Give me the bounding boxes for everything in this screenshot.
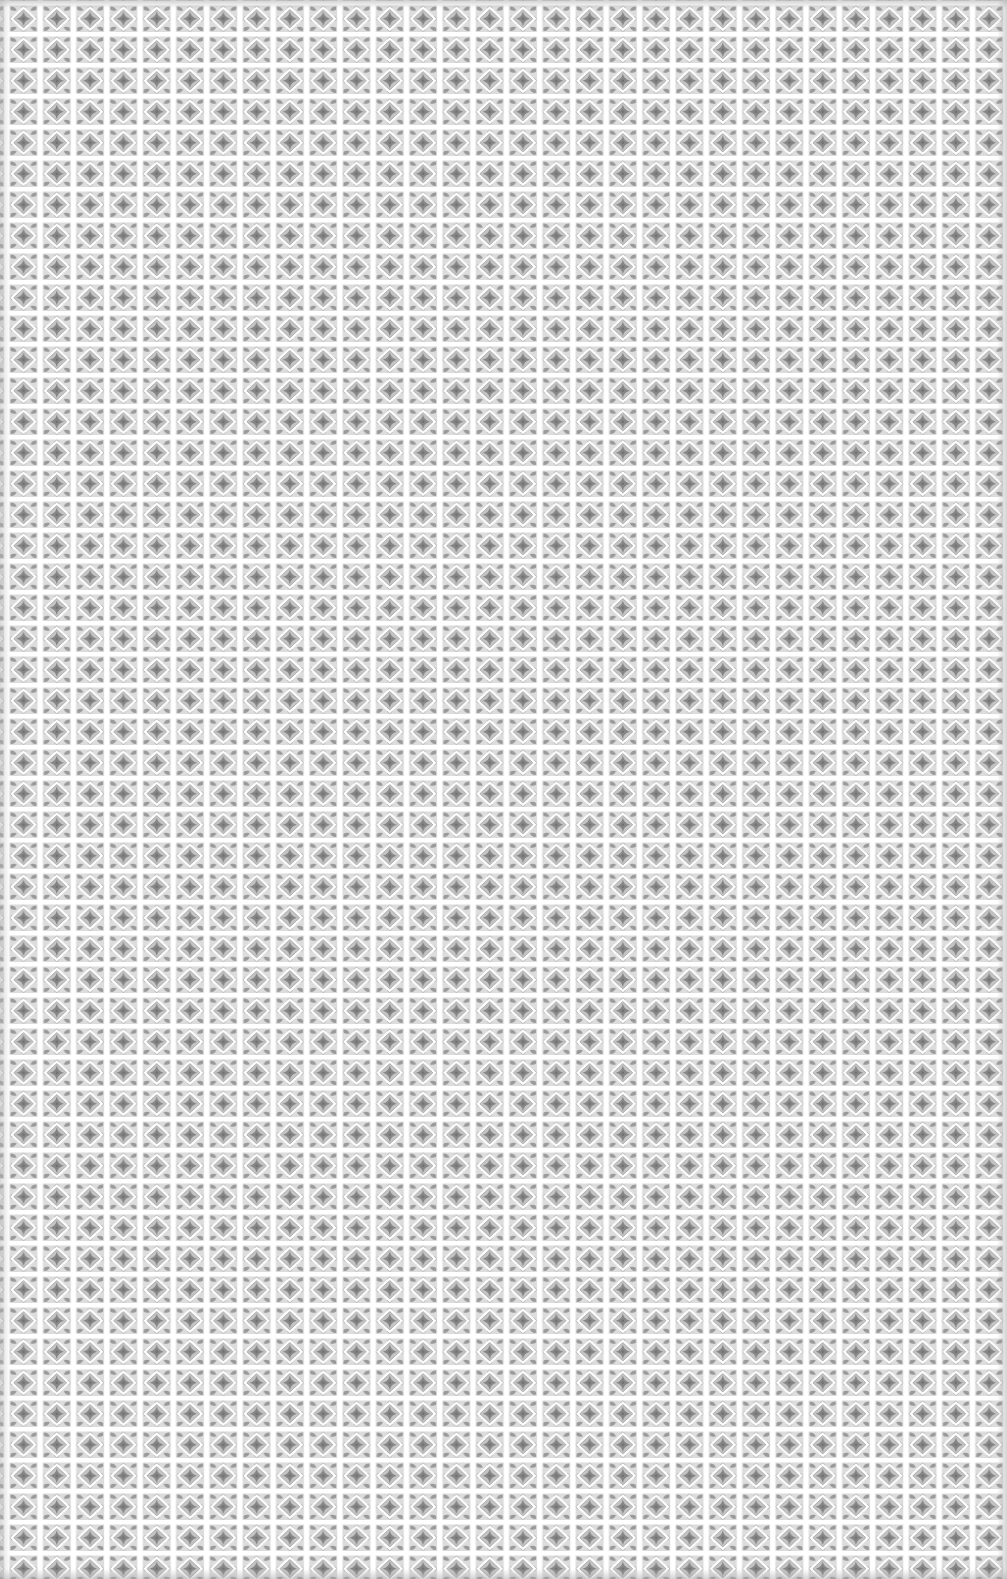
bottom-edge-shadow xyxy=(0,1569,1007,1579)
pattern-fill xyxy=(0,0,1007,1579)
patterned-background: Seamless repeating ornamental tile patte… xyxy=(0,0,1007,1579)
top-edge-shadow xyxy=(0,0,1007,8)
left-edge-shadow xyxy=(0,0,10,1579)
ornamental-tile-pattern xyxy=(0,0,1007,1579)
right-edge-shadow xyxy=(997,0,1007,1579)
